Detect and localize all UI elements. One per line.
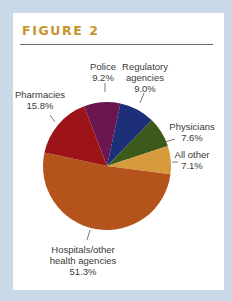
- pie-slices: [43, 102, 171, 230]
- slice-label: Regulatoryagencies9.0%: [122, 61, 168, 94]
- slice-label-text: Hospitals/other: [50, 244, 117, 255]
- slice-label-text: health agencies: [50, 255, 117, 266]
- slice-value: 9.2%: [90, 72, 116, 83]
- leader-line: [140, 93, 144, 103]
- slice-label-text: Regulatory: [122, 61, 168, 72]
- leader-line: [50, 115, 55, 122]
- slice-label: Pharmacies15.8%: [15, 89, 65, 111]
- leader-line: [87, 230, 90, 240]
- slice-label: Hospitals/otherhealth agencies51.3%: [50, 244, 117, 277]
- slice-value: 51.3%: [50, 266, 117, 277]
- slice-label: All other7.1%: [175, 149, 210, 171]
- slice-value: 15.8%: [15, 100, 65, 111]
- slice-label-text: Pharmacies: [15, 89, 65, 100]
- slice-value: 9.0%: [122, 83, 168, 94]
- slice-label-text: agencies: [122, 72, 168, 83]
- slice-label: Physicians7.6%: [169, 121, 214, 143]
- slice-label: Police9.2%: [90, 61, 116, 83]
- slice-label-text: Police: [90, 61, 116, 72]
- slice-label-text: Physicians: [169, 121, 214, 132]
- slice-value: 7.1%: [175, 160, 210, 171]
- slice-label-text: All other: [175, 149, 210, 160]
- slice-value: 7.6%: [169, 132, 214, 143]
